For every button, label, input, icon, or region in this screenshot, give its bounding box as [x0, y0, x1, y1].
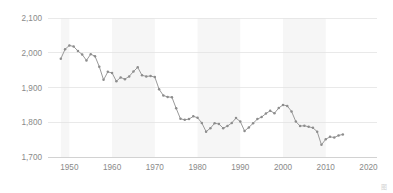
data-point	[72, 45, 75, 48]
data-point	[68, 44, 71, 47]
data-point	[299, 125, 302, 128]
data-point	[128, 75, 131, 78]
data-point	[102, 79, 105, 82]
data-point	[201, 122, 204, 125]
y-tick-label: 2,100	[22, 14, 43, 23]
data-point	[171, 96, 174, 99]
data-point	[329, 136, 332, 139]
data-point	[239, 120, 242, 123]
data-point	[183, 119, 186, 122]
data-point	[243, 130, 246, 133]
data-point	[316, 130, 319, 133]
x-axis-tick-labels: 19501960197019801990200020102020	[60, 163, 378, 172]
data-point	[260, 116, 263, 119]
data-point	[256, 118, 259, 121]
data-point	[64, 48, 67, 51]
data-point	[196, 116, 199, 119]
x-tick-label: 1990	[231, 163, 250, 172]
x-tick-label: 1950	[60, 163, 79, 172]
data-point	[166, 96, 169, 99]
data-point	[303, 124, 306, 127]
data-point	[222, 127, 225, 130]
data-point	[213, 122, 216, 125]
data-point	[132, 70, 135, 73]
y-axis-tick-labels: 1,7001,8001,9002,0002,100	[22, 14, 43, 162]
x-tick-label: 1970	[146, 163, 165, 172]
x-tick-label: 1960	[103, 163, 122, 172]
data-point	[136, 66, 139, 69]
data-point	[209, 127, 212, 130]
line-chart-plot: 1,7001,8001,9002,0002,100 19501960197019…	[0, 0, 393, 193]
data-point	[115, 80, 118, 83]
x-tick-label: 1980	[188, 163, 207, 172]
data-point	[149, 75, 152, 78]
data-point	[162, 94, 165, 97]
x-tick-label: 2000	[274, 163, 293, 172]
data-point	[312, 127, 315, 130]
data-point	[107, 71, 110, 74]
data-point	[141, 74, 144, 77]
data-point	[252, 122, 255, 125]
data-point	[81, 53, 84, 56]
data-point	[145, 75, 148, 78]
data-point	[192, 115, 195, 118]
data-point	[175, 107, 178, 110]
y-tick-label: 1,900	[22, 84, 43, 93]
data-point	[218, 123, 221, 126]
x-tick-label: 2010	[317, 163, 336, 172]
data-point	[290, 110, 293, 113]
data-point	[111, 72, 114, 75]
data-point	[205, 130, 208, 133]
data-point	[282, 104, 285, 107]
data-point	[89, 53, 92, 56]
data-point	[265, 112, 268, 115]
data-point	[337, 134, 340, 137]
data-point	[226, 125, 229, 128]
data-point	[154, 76, 157, 79]
data-point	[286, 105, 289, 108]
data-point	[248, 126, 251, 128]
data-point	[188, 118, 191, 121]
data-point	[342, 133, 345, 136]
data-point	[85, 59, 88, 62]
y-tick-label: 1,700	[22, 153, 43, 162]
data-point	[230, 122, 233, 125]
data-point	[277, 107, 280, 110]
chart-container: 1,7001,8001,9002,0002,100 19501960197019…	[0, 0, 393, 193]
y-tick-label: 2,000	[22, 49, 43, 58]
data-point	[320, 144, 323, 147]
data-point	[235, 117, 238, 120]
data-point	[77, 50, 80, 53]
data-point	[333, 136, 336, 139]
data-point	[60, 57, 63, 60]
watermark-label: 图	[381, 182, 387, 191]
data-point	[269, 110, 272, 113]
data-point	[119, 76, 122, 79]
data-point	[307, 126, 310, 129]
data-point	[124, 78, 127, 81]
data-point	[273, 112, 276, 115]
data-point	[98, 65, 101, 68]
x-tick-label: 2020	[359, 163, 378, 172]
y-tick-label: 1,800	[22, 118, 43, 127]
data-point	[179, 118, 182, 121]
data-point	[295, 120, 298, 123]
data-point	[94, 55, 97, 58]
data-point	[158, 88, 161, 91]
data-point	[324, 138, 327, 141]
